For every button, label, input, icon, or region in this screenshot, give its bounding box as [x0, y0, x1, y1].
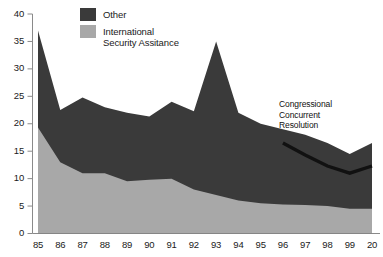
- x-tick-label-96: 96: [272, 240, 294, 250]
- x-tick-label-87: 87: [72, 240, 94, 250]
- y-tick-label-40: 40: [2, 9, 24, 19]
- x-tick-label-95: 95: [250, 240, 272, 250]
- y-tick-marks: [28, 14, 33, 234]
- x-tick-label-92: 92: [183, 240, 205, 250]
- x-tick-label-90: 90: [138, 240, 160, 250]
- chart-legend: Other International Security Assitance: [80, 8, 179, 52]
- legend-item-isa: International Security Assitance: [80, 25, 179, 48]
- y-tick-label-15: 15: [2, 146, 24, 156]
- legend-label-isa: International Security Assitance: [103, 25, 179, 48]
- legend-swatch-isa: [80, 25, 96, 38]
- x-tick-label-97: 97: [294, 240, 316, 250]
- x-tick-label-94: 94: [227, 240, 249, 250]
- legend-swatch-other: [80, 8, 96, 21]
- area-chart: 0510152025303540 85868788899091929394959…: [0, 0, 383, 257]
- congressional-concurrent-resolution-annotation: Congressional Concurrent Resolution: [279, 99, 332, 131]
- legend-item-other: Other: [80, 8, 179, 21]
- y-tick-label-0: 0: [2, 228, 24, 238]
- y-tick-label-30: 30: [2, 63, 24, 73]
- x-tick-label-86: 86: [49, 240, 71, 250]
- y-tick-label-35: 35: [2, 36, 24, 46]
- x-tick-label-99: 99: [339, 240, 361, 250]
- y-tick-label-10: 10: [2, 173, 24, 183]
- legend-label-other: Other: [103, 8, 126, 20]
- y-tick-label-25: 25: [2, 91, 24, 101]
- y-tick-label-20: 20: [2, 118, 24, 128]
- x-tick-label-89: 89: [116, 240, 138, 250]
- x-tick-label-93: 93: [205, 240, 227, 250]
- x-tick-label-85: 85: [27, 240, 49, 250]
- y-tick-label-5: 5: [2, 201, 24, 211]
- x-tick-label-98: 98: [316, 240, 338, 250]
- series-group: [38, 30, 372, 233]
- x-tick-label-88: 88: [94, 240, 116, 250]
- x-tick-label-20: 20: [361, 240, 383, 250]
- x-tick-label-91: 91: [161, 240, 183, 250]
